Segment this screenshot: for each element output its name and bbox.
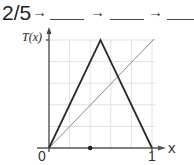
x-axis-label: x bbox=[168, 139, 176, 156]
marked-point-2-5 bbox=[88, 146, 93, 151]
x-axis bbox=[37, 146, 166, 152]
y-axis-label: T(x) bbox=[22, 30, 42, 45]
x-tick-0: 0 bbox=[38, 148, 46, 164]
tent-map-graph bbox=[0, 0, 194, 165]
identity-line bbox=[49, 39, 154, 148]
y-axis bbox=[46, 27, 52, 152]
x-axis-arrow-icon bbox=[158, 146, 166, 151]
y-axis-arrow-icon bbox=[47, 27, 52, 34]
x-tick-1: 1 bbox=[148, 148, 156, 164]
